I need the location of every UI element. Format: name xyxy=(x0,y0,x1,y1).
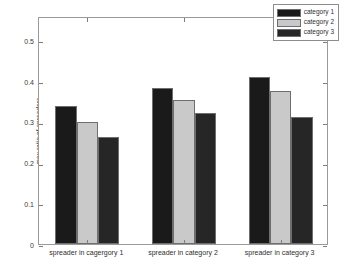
bar xyxy=(55,106,76,244)
x-axis-tick xyxy=(87,18,88,22)
x-axis-tick xyxy=(184,240,185,244)
chart-legend: category 1category 2category 3 xyxy=(273,4,339,41)
y-tick-label: 0.3 xyxy=(4,119,34,126)
y-axis-title-container: max ratio of spreaders xyxy=(8,17,22,245)
legend-item-label: category 2 xyxy=(304,19,334,26)
bar xyxy=(270,91,291,244)
y-tick-label: 0.5 xyxy=(4,38,34,45)
y-tick-label: 0.1 xyxy=(4,201,34,208)
x-axis-tick xyxy=(87,240,88,244)
y-axis-tick xyxy=(323,42,327,43)
x-tick-label: spreader in category 2 xyxy=(148,249,218,256)
y-axis-tick xyxy=(323,246,327,247)
x-axis-tick xyxy=(184,18,185,22)
legend-item-label: category 3 xyxy=(304,29,334,36)
y-axis-tick xyxy=(39,124,43,125)
legend-item-label: category 1 xyxy=(304,9,334,16)
plot-area xyxy=(38,17,328,245)
y-axis-tick xyxy=(323,165,327,166)
y-axis-tick xyxy=(323,205,327,206)
legend-swatch-icon xyxy=(277,19,301,27)
x-axis-tick xyxy=(281,240,282,244)
x-tick-label: spreader in category 3 xyxy=(245,249,315,256)
bar xyxy=(98,137,119,244)
bar xyxy=(152,88,173,244)
y-tick-label: 0.4 xyxy=(4,79,34,86)
legend-item[interactable]: category 3 xyxy=(277,28,334,37)
bar xyxy=(195,113,216,244)
bar xyxy=(173,100,194,244)
y-tick-label: 0.2 xyxy=(4,160,34,167)
bar xyxy=(77,122,98,244)
legend-item[interactable]: category 2 xyxy=(277,18,334,27)
figure-canvas: max ratio of spreaders 00.10.20.30.40.5 … xyxy=(0,0,343,274)
y-axis-tick xyxy=(39,42,43,43)
legend-swatch-icon xyxy=(277,9,301,17)
bar xyxy=(291,117,312,244)
x-tick-label: spreader in cagergory 1 xyxy=(49,249,123,256)
legend-swatch-icon xyxy=(277,29,301,37)
y-axis-tick xyxy=(39,246,43,247)
y-axis-tick xyxy=(323,83,327,84)
y-axis-tick xyxy=(323,124,327,125)
legend-item[interactable]: category 1 xyxy=(277,8,334,17)
y-axis-tick xyxy=(39,83,43,84)
y-tick-label: 0 xyxy=(4,242,34,249)
bar xyxy=(249,77,270,244)
y-axis-tick xyxy=(39,165,43,166)
y-axis-tick xyxy=(39,205,43,206)
